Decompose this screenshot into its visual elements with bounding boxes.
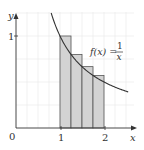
function-label-numerator: 1 [117,41,123,51]
chart: y 1 0 1 2 x f(x) = 1 x [0,0,144,150]
bar-4 [93,75,104,128]
x-axis-label: x [130,132,136,143]
function-label-lhs: f(x) = [89,46,117,57]
bar-3 [82,67,93,128]
y-axis-label: y [7,10,14,21]
x-axis-arrow-icon [131,126,137,131]
y-axis-arrow-icon [14,13,19,19]
bar-1 [60,36,71,128]
function-label-denominator: x [117,52,122,62]
x-tick-label-2: 2 [102,132,108,143]
origin-label: 0 [9,131,15,142]
y-tick-label-1: 1 [8,31,14,42]
x-tick-label-1: 1 [58,132,64,143]
